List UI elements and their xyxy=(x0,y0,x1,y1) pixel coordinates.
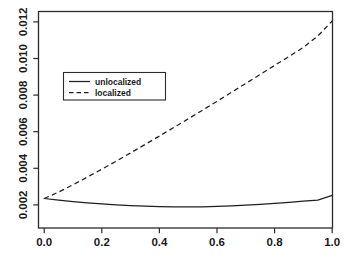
x-tick-label-1: 0.2 xyxy=(94,236,110,248)
x-tick-label-2: 0.4 xyxy=(151,236,168,248)
legend-label-localized: localized xyxy=(95,88,131,98)
x-axis-ticks xyxy=(44,228,332,233)
y-tick-label-5: 0.012 xyxy=(17,8,29,37)
chart-figure: 0.0 0.2 0.4 0.6 0.8 1.0 0.002 0.004 0.00… xyxy=(0,0,346,269)
x-tick-label-4: 0.8 xyxy=(267,236,284,248)
y-tick-label-3: 0.008 xyxy=(17,80,29,109)
y-tick-label-4: 0.010 xyxy=(17,44,29,73)
y-axis-ticks xyxy=(33,22,38,205)
y-tick-label-2: 0.006 xyxy=(17,117,29,146)
y-tick-label-1: 0.004 xyxy=(17,153,29,182)
x-tick-label-3: 0.6 xyxy=(209,236,225,248)
line-chart: 0.0 0.2 0.4 0.6 0.8 1.0 0.002 0.004 0.00… xyxy=(0,0,346,269)
legend-label-unlocalized: unlocalized xyxy=(95,77,141,87)
series-line-localized xyxy=(44,21,332,199)
chart-legend: unlocalized localized xyxy=(64,73,166,101)
y-axis-tick-labels: 0.002 0.004 0.006 0.008 0.010 0.012 xyxy=(17,8,29,220)
plot-frame xyxy=(39,12,333,229)
x-tick-label-0: 0.0 xyxy=(36,236,52,248)
x-axis-tick-labels: 0.0 0.2 0.4 0.6 0.8 1.0 xyxy=(36,236,340,248)
x-tick-label-5: 1.0 xyxy=(324,236,340,248)
series-line-unlocalized xyxy=(44,195,332,207)
y-tick-label-0: 0.002 xyxy=(17,191,29,220)
